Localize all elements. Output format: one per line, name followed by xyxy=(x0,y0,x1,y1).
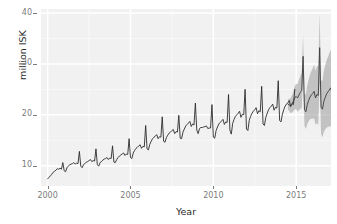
y-axis-tick-label: 20 xyxy=(0,109,32,118)
x-axis-tick-label: 2010 xyxy=(193,191,233,200)
y-axis-tick-label: 40 xyxy=(0,8,32,17)
y-axis-tick-mark xyxy=(33,13,37,14)
x-axis-tick-label: 2000 xyxy=(28,191,68,200)
plot-panel xyxy=(41,9,331,186)
y-axis-tick-mark xyxy=(33,64,37,65)
y-axis-tick-mark xyxy=(33,166,37,167)
y-axis-tick-group: 10203040 xyxy=(0,0,32,200)
x-axis-tick-label: 2015 xyxy=(276,191,316,200)
series-lines xyxy=(48,26,331,179)
y-axis-tick-label: 10 xyxy=(0,160,32,169)
major-gridlines xyxy=(41,9,331,186)
chart-root: million ISK 10203040 2000200520102015 Ye… xyxy=(0,0,337,224)
x-axis-title: Year xyxy=(41,206,331,220)
forecast-confidence-band xyxy=(288,9,331,142)
minor-gridlines xyxy=(41,9,331,186)
x-axis-tick-label: 2005 xyxy=(110,191,150,200)
y-axis-tick-label: 30 xyxy=(0,58,32,67)
x-axis-tick-mark xyxy=(296,186,297,189)
x-axis-tick-mark xyxy=(130,186,131,189)
y-axis-tick-mark xyxy=(33,115,37,116)
x-axis-tick-mark xyxy=(48,186,49,189)
plot-canvas xyxy=(41,9,331,186)
x-axis-tick-mark xyxy=(213,186,214,189)
